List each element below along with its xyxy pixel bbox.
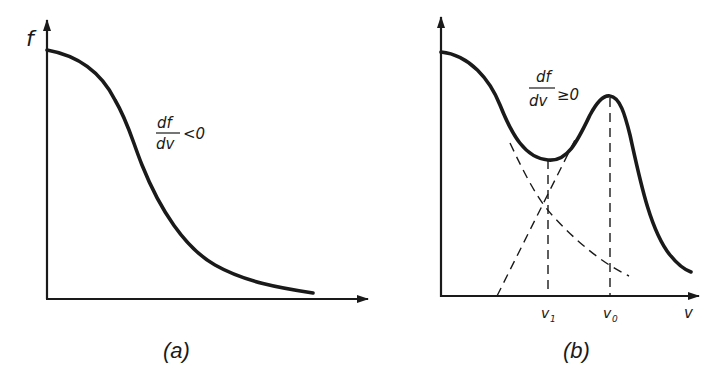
annotation-numerator: df [157,114,175,132]
tick-label-v0-base: v [603,305,612,321]
decreasing-curve-a [47,50,313,293]
tick-label-v0-sub: 0 [612,314,618,324]
panel-b: df dv ≥0 v 1 v 0 v (b) [440,17,699,363]
derivative-annotation-b: df dv ≥0 [529,68,579,110]
beam-component-dashed [497,140,575,296]
annotation-denominator: dv [529,92,549,110]
tick-label-v1: v 1 [541,305,556,324]
annotation-relation: <0 [183,125,205,143]
tick-label-v0: v 0 [603,305,618,324]
x-axis-label-v: v [684,304,694,322]
derivative-annotation-a: df dv <0 [156,114,205,153]
caption-a: (a) [163,338,190,363]
panel-a: f df dv <0 (a) [26,20,368,363]
caption-b: (b) [563,338,590,363]
decreasing-component-dashed [510,143,629,276]
tick-label-v1-sub: 1 [550,314,556,324]
annotation-denominator: dv [156,135,176,153]
bump-on-tail-curve-b [441,52,691,272]
y-axis-label-f: f [26,26,37,51]
annotation-numerator: df [536,68,554,86]
figure: f df dv <0 (a) df dv ≥0 v 1 [0,0,717,383]
annotation-relation: ≥0 [557,86,579,104]
tick-label-v1-base: v [541,305,550,321]
